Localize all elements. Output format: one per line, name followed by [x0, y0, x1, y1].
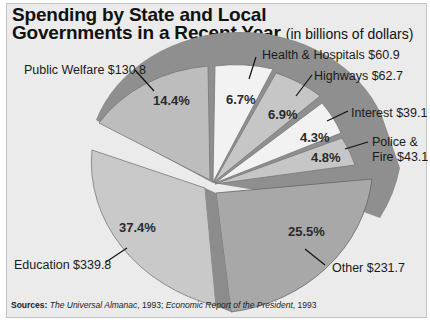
source-1: The Universal Almanac: [50, 300, 138, 310]
pct-education: 37.4%: [119, 220, 156, 235]
pct-highways: 6.9%: [268, 107, 298, 122]
pct-interest: 4.3%: [300, 130, 330, 145]
label-welfare: Public Welfare $130.8: [24, 63, 146, 78]
label-police-line1: Police &: [372, 135, 418, 150]
pct-other: 25.5%: [288, 224, 325, 239]
sources-note: Sources: The Universal Almanac, 1993; Ec…: [11, 300, 316, 310]
label-education: Education $339.8: [14, 258, 111, 273]
label-police-line2: Fire $43.1: [372, 150, 428, 165]
sources-label: Sources:: [11, 300, 47, 310]
pct-health: 6.7%: [226, 92, 256, 107]
source-2: Economic Report of the President: [166, 300, 293, 310]
label-highways: Highways $62.7: [314, 69, 403, 84]
pct-police: 4.8%: [311, 150, 341, 165]
slice-other: [216, 179, 372, 312]
pct-welfare: 14.4%: [153, 93, 190, 108]
label-interest: Interest $39.1: [351, 106, 427, 121]
label-other: Other $231.7: [332, 261, 405, 276]
label-health: Health & Hospitals $60.9: [262, 48, 400, 63]
